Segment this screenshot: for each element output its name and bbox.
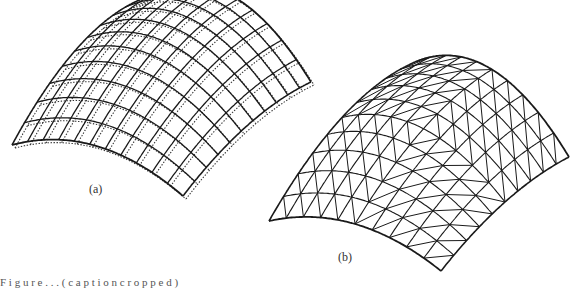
panel-label-a: (a)	[89, 182, 102, 197]
grid-shell-quad-mesh	[12, 0, 314, 199]
figure-caption-cropped: F i g u r e . . . ( c a p t i o n c r o …	[0, 276, 583, 292]
grid-shell-triangular-mesh	[269, 55, 569, 271]
panel-label-b: (b)	[338, 250, 352, 265]
caption-text: F i g u r e . . . ( c a p t i o n c r o …	[0, 276, 178, 288]
